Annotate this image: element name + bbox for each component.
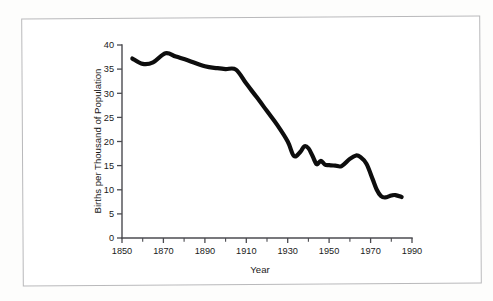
x-tick-label: 1970	[360, 246, 380, 256]
data-series-line	[132, 53, 401, 197]
y-tick-label: 30	[104, 89, 114, 99]
y-tick-label: 10	[104, 185, 114, 195]
x-axis-title: Year	[250, 264, 270, 275]
y-tick-label: 0	[109, 233, 114, 243]
x-tick-label: 1930	[277, 246, 297, 256]
scanned-page: 40 35 30 25 20 15 10 5 0	[0, 0, 493, 301]
x-tick-label: 1850	[112, 246, 132, 256]
x-tick-labels: 1850 1870 1890 1910 1930 1950 1970 1990	[112, 246, 422, 256]
x-tick-marks	[122, 238, 412, 243]
y-axis-title: Births per Thousand of Population	[92, 69, 103, 214]
x-tick-label: 1950	[319, 246, 339, 256]
x-tick-label: 1910	[236, 246, 256, 256]
y-tick-label: 15	[104, 161, 114, 171]
chart-svg: 40 35 30 25 20 15 10 5 0	[0, 0, 493, 301]
y-tick-label: 5	[109, 209, 114, 219]
x-tick-label: 1870	[153, 246, 173, 256]
line-chart: 40 35 30 25 20 15 10 5 0	[0, 0, 493, 301]
y-tick-labels: 40 35 30 25 20 15 10 5 0	[104, 40, 114, 243]
y-tick-marks	[117, 45, 122, 238]
y-tick-label: 25	[104, 113, 114, 123]
y-tick-label: 40	[104, 40, 114, 50]
x-tick-label: 1990	[402, 246, 422, 256]
y-tick-label: 35	[104, 64, 114, 74]
x-tick-label: 1890	[195, 246, 215, 256]
y-tick-label: 20	[104, 137, 114, 147]
